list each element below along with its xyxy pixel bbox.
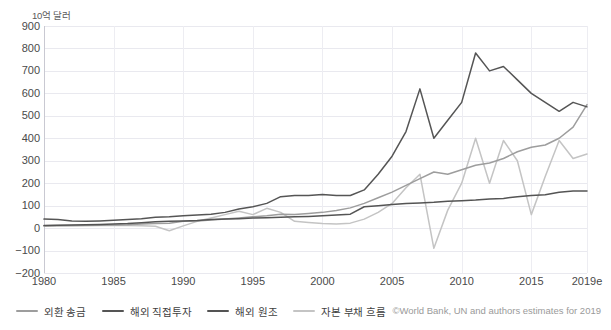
legend-label: 해외 직접투자 <box>130 304 192 319</box>
x-axis-tick-label: 1985 <box>101 275 125 287</box>
y-axis-tick-label: 600 <box>2 88 40 99</box>
plot-svg <box>44 26 587 273</box>
series-line <box>44 138 587 248</box>
chart-legend: 외환 송금해외 직접투자해외 원조자본 부채 흐름 <box>16 303 386 319</box>
legend-color-swatch <box>16 310 38 312</box>
plot-area <box>44 26 587 273</box>
legend-item[interactable]: 해외 원조 <box>207 304 277 319</box>
x-axis-tick-label: 2000 <box>310 275 334 287</box>
x-axis-tick-label: 2015 <box>519 275 543 287</box>
x-axis-tick-label: 2019e <box>572 275 603 287</box>
y-axis-tick-label: 0 <box>2 223 40 234</box>
y-axis-tick-label: 200 <box>2 178 40 189</box>
credit-text: ©World Bank, UN and authors estimates fo… <box>392 305 601 316</box>
y-axis-tick-label: 800 <box>2 43 40 54</box>
line-chart: 10억 달러 9008007006005004003002001000−100−… <box>0 0 611 330</box>
y-axis-tick-label: 300 <box>2 155 40 166</box>
legend-color-swatch <box>102 310 124 312</box>
legend-label: 외환 송금 <box>44 304 86 319</box>
legend-item[interactable]: 자본 부채 흐름 <box>293 304 385 319</box>
series-line <box>44 105 587 226</box>
legend-color-swatch <box>207 310 229 312</box>
x-axis-tick-label: 1990 <box>171 275 195 287</box>
y-axis-tick-label: 700 <box>2 65 40 76</box>
y-axis-tick-label: 100 <box>2 200 40 211</box>
x-axis-tick-label: 1980 <box>32 275 56 287</box>
legend-color-swatch <box>293 310 315 312</box>
legend-item[interactable]: 해외 직접투자 <box>102 304 192 319</box>
x-axis-tick-label: 2010 <box>449 275 473 287</box>
x-axis-tick-label: 1995 <box>241 275 265 287</box>
y-axis-tick-label: −100 <box>2 245 40 256</box>
legend-item[interactable]: 외환 송금 <box>16 304 86 319</box>
series-line <box>44 53 587 221</box>
legend-label: 해외 원조 <box>235 304 277 319</box>
y-axis-tick-label: 500 <box>2 110 40 121</box>
y-axis-tick-label: 400 <box>2 133 40 144</box>
legend-label: 자본 부채 흐름 <box>321 304 385 319</box>
x-axis-tick-labels: 198019851990199520002005201020152019e <box>44 275 587 293</box>
y-axis-tick-labels: 9008007006005004003002001000−100−200 <box>0 26 40 273</box>
y-axis-tick-label: 900 <box>2 21 40 32</box>
x-axis-tick-label: 2005 <box>380 275 404 287</box>
